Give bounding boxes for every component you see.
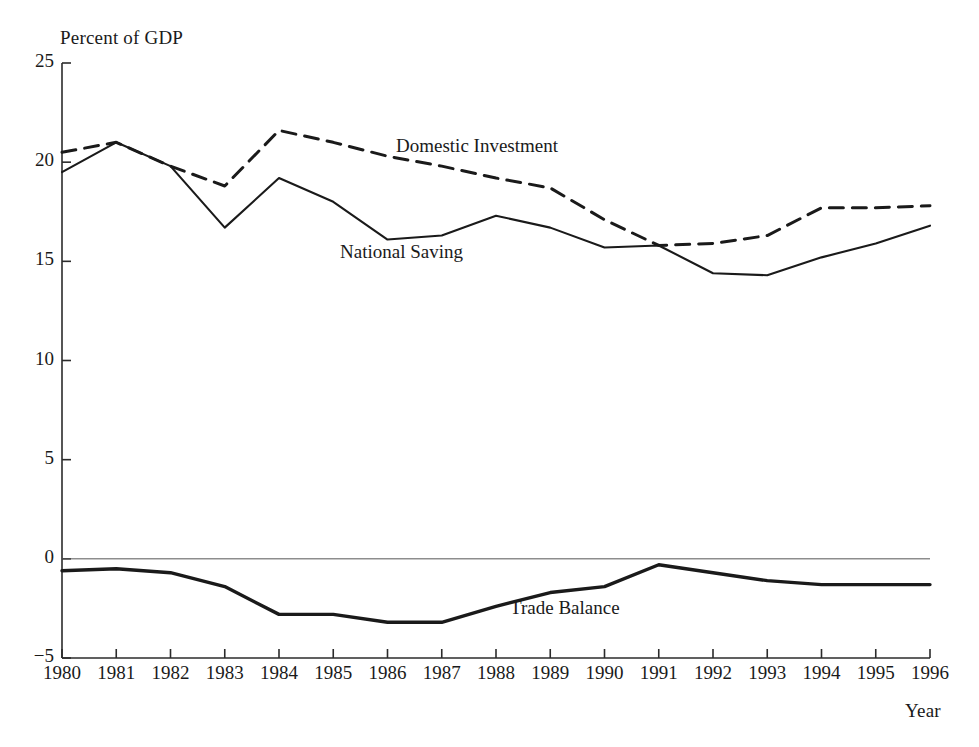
- x-tick-label: 1983: [195, 662, 255, 684]
- x-tick-label: 1992: [683, 662, 743, 684]
- series-line-trade-balance: [62, 565, 930, 623]
- x-tick-label: 1985: [303, 662, 363, 684]
- x-axis-title: Year: [905, 700, 941, 722]
- x-tick-label: 1995: [846, 662, 906, 684]
- y-tick-label: 20: [14, 149, 54, 171]
- x-tick-label: 1981: [86, 662, 146, 684]
- series-label-domestic-investment: Domestic Investment: [396, 135, 558, 157]
- x-tick-label: 1982: [141, 662, 201, 684]
- chart-figure: Percent of GDP Year 2520151050−5 1980198…: [0, 0, 979, 747]
- x-tick-label: 1989: [520, 662, 580, 684]
- x-tick-label: 1986: [358, 662, 418, 684]
- x-tick-label: 1990: [575, 662, 635, 684]
- x-tick-label: 1984: [249, 662, 309, 684]
- x-tick-label: 1980: [32, 662, 92, 684]
- y-tick-label: 10: [14, 348, 54, 370]
- y-tick-label: 25: [14, 50, 54, 72]
- series-label-national-saving: National Saving: [340, 241, 463, 263]
- series-group: [62, 130, 930, 622]
- x-tick-label: 1991: [629, 662, 689, 684]
- x-tick-label: 1988: [466, 662, 526, 684]
- series-label-trade-balance: Trade Balance: [510, 597, 620, 619]
- x-tick-label: 1987: [412, 662, 472, 684]
- series-line-national-saving: [62, 142, 930, 275]
- y-axis-title: Percent of GDP: [60, 27, 183, 49]
- y-tick-label: 5: [14, 447, 54, 469]
- x-tick-label: 1994: [792, 662, 852, 684]
- x-tick-label: 1996: [900, 662, 960, 684]
- y-tick-label: 15: [14, 248, 54, 270]
- plot-canvas: [0, 0, 979, 747]
- x-tick-label: 1993: [737, 662, 797, 684]
- y-tick-label: 0: [14, 546, 54, 568]
